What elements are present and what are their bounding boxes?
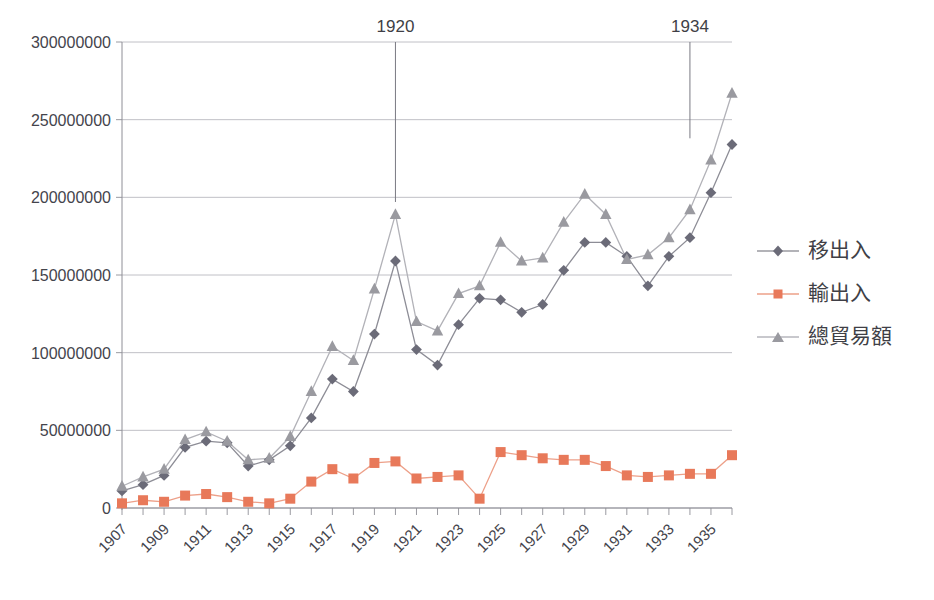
data-point-square[interactable] [138, 495, 148, 505]
xtick-label: 1915 [263, 520, 299, 556]
data-point-diamond[interactable] [706, 187, 717, 198]
xtick-label: 1913 [221, 520, 257, 556]
legend-item-series-0[interactable]: 移出入 [756, 240, 892, 261]
data-point-diamond[interactable] [537, 299, 548, 310]
data-point-triangle[interactable] [327, 340, 338, 351]
data-point-square[interactable] [285, 494, 295, 504]
data-point-square[interactable] [559, 455, 569, 465]
legend-item-series-2[interactable]: 總貿易額 [756, 326, 892, 347]
data-point-triangle[interactable] [411, 315, 422, 326]
data-point-triangle[interactable] [495, 236, 506, 247]
data-point-square[interactable] [454, 470, 464, 480]
ytick-label: 300000000 [31, 34, 111, 51]
legend-marker-triangle-icon [756, 329, 800, 345]
data-point-triangle[interactable] [726, 87, 737, 98]
ytick-label: 50000000 [40, 422, 111, 439]
data-point-square[interactable] [159, 497, 169, 507]
data-point-square[interactable] [538, 453, 548, 463]
data-point-triangle[interactable] [705, 154, 716, 165]
xtick-label: 1927 [515, 520, 551, 556]
series-line-0 [122, 145, 732, 491]
data-point-diamond[interactable] [516, 307, 527, 318]
data-point-triangle[interactable] [579, 188, 590, 199]
data-point-square[interactable] [327, 464, 337, 474]
ytick-label: 200000000 [31, 189, 111, 206]
data-point-square[interactable] [433, 472, 443, 482]
chart-legend: 移出入 輸出入 總貿易額 [756, 240, 892, 347]
legend-label-series-0: 移出入 [808, 240, 871, 261]
data-point-diamond[interactable] [285, 440, 296, 451]
data-point-square[interactable] [264, 498, 274, 508]
data-point-diamond[interactable] [727, 139, 738, 150]
legend-label-series-2: 總貿易額 [808, 326, 892, 347]
data-point-square[interactable] [390, 456, 400, 466]
data-point-triangle[interactable] [200, 426, 211, 437]
xtick-label: 1929 [557, 520, 593, 556]
data-point-diamond[interactable] [201, 436, 212, 447]
data-point-square[interactable] [706, 469, 716, 479]
data-point-square[interactable] [222, 492, 232, 502]
data-point-square[interactable] [685, 469, 695, 479]
ytick-label: 150000000 [31, 267, 111, 284]
data-point-diamond[interactable] [495, 294, 506, 305]
data-point-square[interactable] [727, 450, 737, 460]
data-point-triangle[interactable] [285, 430, 296, 441]
data-point-square[interactable] [622, 470, 632, 480]
data-point-diamond[interactable] [642, 280, 653, 291]
annotation-label: 1920 [377, 17, 415, 36]
xtick-label: 1921 [389, 520, 425, 556]
ytick-label: 250000000 [31, 112, 111, 129]
data-point-square[interactable] [580, 455, 590, 465]
ytick-label: 100000000 [31, 345, 111, 362]
data-point-triangle[interactable] [432, 325, 443, 336]
data-point-diamond[interactable] [369, 329, 380, 340]
annotation-label: 1934 [671, 17, 709, 36]
xtick-label: 1935 [683, 520, 719, 556]
data-point-triangle[interactable] [221, 435, 232, 446]
xtick-label: 1911 [179, 520, 214, 555]
data-point-triangle[interactable] [390, 208, 401, 219]
data-point-diamond[interactable] [306, 413, 317, 424]
data-point-square[interactable] [517, 450, 527, 460]
data-point-diamond[interactable] [327, 374, 338, 385]
data-point-square[interactable] [643, 472, 653, 482]
data-point-square[interactable] [348, 473, 358, 483]
legend-marker-diamond-icon [756, 243, 800, 259]
legend-item-series-1[interactable]: 輸出入 [756, 283, 892, 304]
data-point-square[interactable] [369, 458, 379, 468]
data-point-triangle[interactable] [116, 480, 127, 491]
data-point-triangle[interactable] [369, 283, 380, 294]
xtick-label: 1931 [599, 520, 635, 556]
data-point-diamond[interactable] [432, 360, 443, 371]
data-point-triangle[interactable] [348, 354, 359, 365]
data-point-diamond[interactable] [579, 237, 590, 248]
xtick-label: 1907 [95, 520, 131, 556]
data-point-square[interactable] [664, 470, 674, 480]
data-point-triangle[interactable] [474, 280, 485, 291]
xtick-label: 1925 [473, 520, 509, 556]
chart-container: 0500000001000000001500000002000000002500… [0, 0, 934, 600]
data-point-square[interactable] [601, 461, 611, 471]
series-line-1 [122, 452, 732, 503]
ytick-label: 0 [102, 500, 111, 517]
data-point-triangle[interactable] [642, 249, 653, 260]
data-point-diamond[interactable] [411, 344, 422, 355]
data-point-square[interactable] [475, 494, 485, 504]
data-point-diamond[interactable] [348, 386, 359, 397]
data-point-triangle[interactable] [537, 252, 548, 263]
data-point-triangle[interactable] [306, 385, 317, 396]
data-point-square[interactable] [306, 477, 316, 487]
data-point-square[interactable] [180, 491, 190, 501]
data-point-square[interactable] [243, 497, 253, 507]
data-point-triangle[interactable] [684, 204, 695, 215]
data-point-square[interactable] [201, 489, 211, 499]
data-point-square[interactable] [411, 473, 421, 483]
legend-marker-square-icon [756, 286, 800, 302]
data-point-diamond[interactable] [600, 237, 611, 248]
data-point-square[interactable] [117, 498, 127, 508]
legend-label-series-1: 輸出入 [808, 283, 871, 304]
xtick-label: 1923 [431, 520, 467, 556]
data-point-square[interactable] [496, 447, 506, 457]
data-point-diamond[interactable] [558, 265, 569, 276]
data-point-diamond[interactable] [390, 256, 401, 267]
